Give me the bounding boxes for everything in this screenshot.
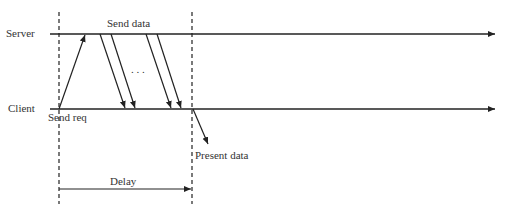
send-req-arrow [59,35,85,109]
client-label: Client [8,103,35,114]
server-label: Server [6,28,35,39]
data-arrow-4 [157,34,181,108]
present-data-label: Present data [195,150,248,161]
present-data-arrow [193,109,208,144]
send-data-label: Send data [107,18,150,29]
ellipsis-label: . . . [131,64,145,75]
data-arrow-1 [100,34,125,108]
send-req-label: Send req [48,112,87,123]
timing-diagram [0,0,514,218]
data-arrow-3 [146,34,171,108]
delay-label: Delay [110,176,136,187]
